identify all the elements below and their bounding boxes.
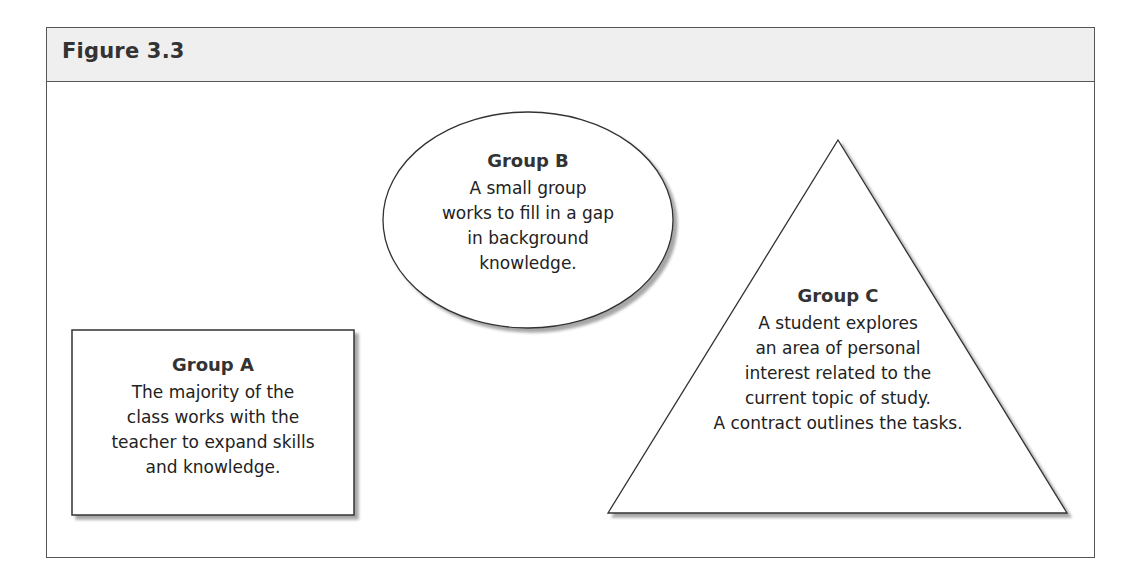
group-c-line: A student explores xyxy=(683,311,993,336)
group-c-label: Group C A student explores an area of pe… xyxy=(683,283,993,436)
group-c-title: Group C xyxy=(683,283,993,308)
group-b-line: A small group xyxy=(383,176,673,201)
group-b-label: Group B A small group works to fill in a… xyxy=(383,148,673,276)
group-a-title: Group A xyxy=(72,352,354,377)
group-b-title: Group B xyxy=(383,148,673,173)
group-a-label: Group A The majority of the class works … xyxy=(72,352,354,480)
group-c-line: an area of personal xyxy=(683,336,993,361)
group-b-line: in background xyxy=(383,226,673,251)
group-a-line: class works with the xyxy=(72,405,354,430)
group-c-line: A contract outlines the tasks. xyxy=(683,411,993,436)
group-c-line: interest related to the xyxy=(683,361,993,386)
group-a-line: and knowledge. xyxy=(72,455,354,480)
group-b-line: works to fill in a gap xyxy=(383,201,673,226)
group-a-line: The majority of the xyxy=(72,380,354,405)
group-a-line: teacher to expand skills xyxy=(72,430,354,455)
group-b-line: knowledge. xyxy=(383,251,673,276)
group-c-line: current topic of study. xyxy=(683,386,993,411)
